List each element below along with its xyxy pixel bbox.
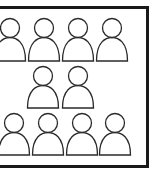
person-head [5, 114, 24, 133]
person-head [73, 114, 92, 133]
person-head [106, 114, 125, 133]
people-diagram [0, 0, 162, 175]
person-head [1, 19, 20, 38]
person-head [39, 114, 58, 133]
person-head [103, 19, 122, 38]
person-head [69, 19, 88, 38]
person-head [34, 67, 53, 86]
person-head [35, 19, 54, 38]
person-head [69, 67, 88, 86]
